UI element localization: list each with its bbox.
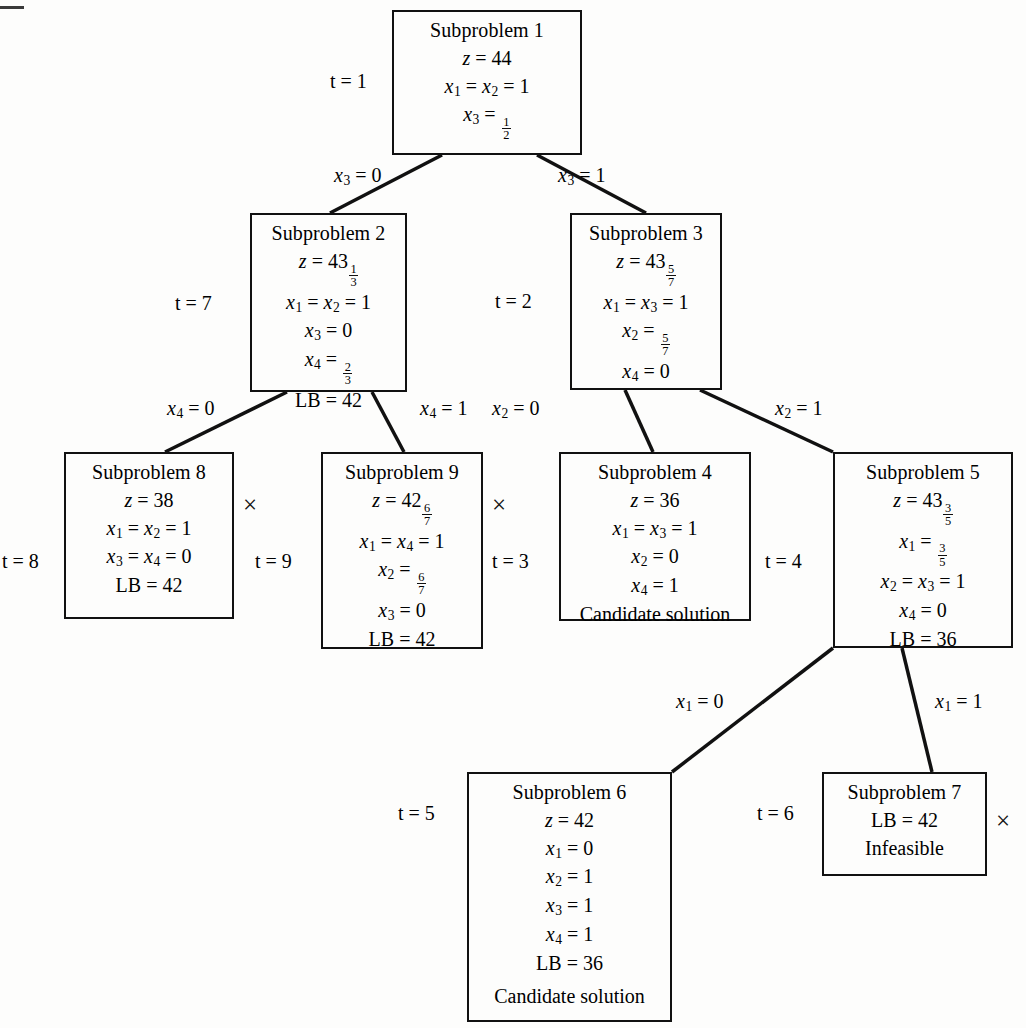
t-label-subproblem-5: t = 4 (765, 550, 802, 573)
t-label-subproblem-4: t = 3 (492, 550, 529, 573)
corner-dash-mark (0, 6, 24, 9)
node-subproblem-4[interactable]: Subproblem 4 z=36 x1=x3=1 x2=0 x4=1 Cand… (559, 452, 751, 621)
node-line-z: z=36 (630, 487, 679, 515)
t-label-subproblem-6: t = 5 (398, 802, 435, 825)
node-title: Subproblem 8 (92, 461, 206, 484)
node-subproblem-1[interactable]: Subproblem 1 z=44 x1=x2=1 x3=12 (392, 10, 582, 155)
node-line-x2: x2=67 (378, 556, 426, 597)
edge-sub5-sub7 (902, 648, 932, 772)
edge-label-sub3-sub4: x2=0 (492, 397, 539, 422)
node-line-z: z=4357 (616, 248, 675, 289)
node-line-x3: x3=12 (463, 101, 511, 142)
t-label-subproblem-2: t = 7 (175, 292, 212, 315)
node-line-lb: LB=36 (536, 950, 603, 978)
node-line-x1: x1=35 (899, 528, 947, 569)
node-subproblem-7[interactable]: Subproblem 7 LB=42 Infeasible (822, 772, 987, 876)
node-line-x1: x1=0 (546, 835, 593, 864)
node-line-lb: LB=42 (295, 387, 362, 415)
node-subproblem-2[interactable]: Subproblem 2 z=4313 x1=x2=1 x3=0 x4=23 L… (250, 213, 407, 392)
branch-and-bound-figure: Subproblem 1 z=44 x1=x2=1 x3=12 t = 1 Su… (0, 0, 1026, 1028)
node-note-infeasible: Infeasible (865, 835, 944, 863)
t-label-subproblem-9: t = 9 (255, 550, 292, 573)
node-subproblem-9[interactable]: Subproblem 9 z=4267 x1=x4=1 x2=67 x3=0 L… (321, 452, 483, 649)
node-title: Subproblem 5 (866, 461, 980, 484)
t-label-subproblem-3: t = 2 (495, 290, 532, 313)
node-line-z: z=4267 (372, 487, 431, 528)
node-subproblem-3[interactable]: Subproblem 3 z=4357 x1=x3=1 x2=57 x4=0 (570, 213, 722, 390)
edge-label-sub5-sub7: x1=1 (935, 690, 982, 715)
node-note-candidate: Candidate solution (580, 601, 731, 629)
t-label-subproblem-7: t = 6 (757, 802, 794, 825)
node-line-z: z=4313 (299, 248, 358, 289)
node-line-x1x2: x1=x2=1 (107, 515, 192, 544)
node-line-z: z=38 (124, 487, 173, 515)
node-line-x4: x4=0 (622, 358, 669, 387)
node-line-x1x3: x1=x3=1 (604, 289, 689, 318)
prune-mark-subproblem-8: × (243, 492, 257, 517)
t-label-subproblem-1: t = 1 (330, 70, 367, 93)
edge-label-sub2-sub9: x4=1 (420, 397, 467, 422)
node-line-lb: LB=36 (890, 626, 957, 654)
node-line-x2x3: x2=x3=1 (881, 568, 966, 597)
node-subproblem-6[interactable]: Subproblem 6 z=42 x1=0 x2=1 x3=1 x4=1 LB… (467, 772, 672, 1022)
prune-mark-subproblem-7: × (996, 808, 1010, 833)
node-subproblem-5[interactable]: Subproblem 5 z=4335 x1=35 x2=x3=1 x4=0 L… (833, 452, 1013, 648)
node-line-x2: x2=0 (631, 543, 678, 572)
prune-mark-subproblem-9: × (492, 492, 506, 517)
node-line-x4: x4=0 (899, 597, 946, 626)
edge-sub2-sub9 (372, 392, 404, 452)
node-title: Subproblem 2 (272, 222, 386, 245)
node-line-x4: x4=23 (305, 346, 353, 387)
edge-sub3-sub4 (625, 390, 653, 452)
node-line-x2: x2=1 (546, 863, 593, 892)
node-line-x3: x3=0 (305, 317, 352, 346)
node-line-x1x2: x1=x2=1 (445, 73, 530, 102)
node-line-lb: LB=42 (369, 626, 436, 654)
node-line-x3: x3=1 (546, 892, 593, 921)
node-title: Subproblem 4 (598, 461, 712, 484)
node-line-x1x4: x1=x4=1 (360, 528, 445, 557)
node-line-z: z=4335 (893, 487, 952, 528)
node-note-candidate: Candidate solution (494, 983, 645, 1011)
edge-label-sub2-sub8: x4=0 (167, 397, 214, 422)
node-title: Subproblem 1 (430, 19, 544, 42)
node-line-x4: x4=1 (631, 572, 678, 601)
node-title: Subproblem 7 (848, 781, 962, 804)
edge-label-sub1-sub2: x3=0 (334, 164, 381, 189)
node-line-z: z=42 (545, 807, 594, 835)
t-label-subproblem-8: t = 8 (2, 550, 39, 573)
node-line-x3: x3=0 (378, 597, 425, 626)
node-line-lb: LB=42 (116, 572, 183, 600)
node-line-x2: x2=57 (622, 317, 670, 358)
node-title: Subproblem 9 (345, 461, 459, 484)
node-line-z: z=44 (462, 45, 511, 73)
node-line-x3x4: x3=x4=0 (107, 543, 192, 572)
node-title: Subproblem 6 (513, 781, 627, 804)
edge-label-sub5-sub6: x1=0 (676, 690, 723, 715)
node-subproblem-8[interactable]: Subproblem 8 z=38 x1=x2=1 x3=x4=0 LB=42 (64, 452, 234, 619)
node-line-x1x2: x1=x2=1 (286, 289, 371, 318)
node-line-x1x3: x1=x3=1 (613, 515, 698, 544)
edge-label-sub3-sub5: x2=1 (775, 397, 822, 422)
edge-label-sub1-sub3: x3=1 (558, 164, 605, 189)
node-line-lb: LB=42 (871, 807, 938, 835)
node-title: Subproblem 3 (589, 222, 703, 245)
node-line-x4: x4=1 (546, 921, 593, 950)
